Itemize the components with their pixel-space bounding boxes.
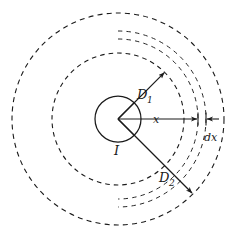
- label-current-i: I: [113, 143, 120, 158]
- label-d2-subscript: 2: [168, 178, 175, 188]
- label-d1-subscript: 1: [147, 95, 153, 105]
- physics-figure: D 1 I D 2 x dx: [0, 0, 237, 240]
- wedge-upper-radius: [118, 103, 134, 119]
- label-dx: dx: [204, 131, 218, 144]
- label-x: x: [153, 113, 160, 126]
- wedge-lower-radius: [118, 119, 134, 135]
- diagram-canvas: D 1 I D 2 x dx: [0, 0, 237, 240]
